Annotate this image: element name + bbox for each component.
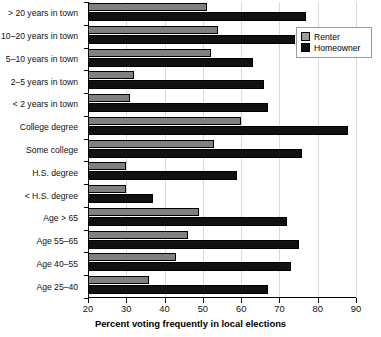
y-axis-category-label: Age > 65 xyxy=(43,213,78,223)
bar-homeowner xyxy=(88,171,237,180)
bar-homeowner xyxy=(88,80,264,89)
x-tick-label: 30 xyxy=(111,303,141,315)
bar-homeowner xyxy=(88,194,153,203)
legend-swatch-renter-icon xyxy=(301,32,310,41)
y-axis-category-label: Some college xyxy=(26,145,78,155)
y-axis-category-label: H.S. degree xyxy=(32,168,78,178)
bar-renter xyxy=(88,49,211,57)
bar-homeowner xyxy=(88,35,295,44)
x-tick-label: 80 xyxy=(303,303,333,315)
legend-swatch-homeowner-icon xyxy=(301,43,310,52)
bar-chart: > 20 years in town10–20 years in town5–1… xyxy=(0,0,381,337)
bar-renter xyxy=(88,71,134,79)
bar-renter xyxy=(88,208,199,216)
bar-homeowner xyxy=(88,285,268,294)
x-tick-label: 60 xyxy=(226,303,256,315)
bar-homeowner xyxy=(88,58,253,67)
bar-group xyxy=(88,116,356,139)
legend-item-homeowner: Homeowner xyxy=(301,42,367,53)
bar-homeowner xyxy=(88,262,291,271)
y-axis-category-label: Age 40–55 xyxy=(36,259,78,269)
y-axis-category-label: College degree xyxy=(20,122,78,132)
y-axis-category-label: 10–20 years in town xyxy=(1,31,78,41)
y-axis-category-label: 5–10 years in town xyxy=(6,54,78,64)
x-tick-label: 70 xyxy=(264,303,294,315)
x-tick-label: 20 xyxy=(73,303,103,315)
x-tick-label: 90 xyxy=(341,303,371,315)
legend-label-renter: Renter xyxy=(314,32,340,42)
bar-group xyxy=(88,139,356,162)
bar-renter xyxy=(88,3,207,11)
bar-group xyxy=(88,184,356,207)
bar-group xyxy=(88,93,356,116)
x-tick-label: 40 xyxy=(150,303,180,315)
legend: Renter Homeowner xyxy=(296,27,372,58)
bar-renter xyxy=(88,253,176,261)
bar-homeowner xyxy=(88,217,287,226)
bar-homeowner xyxy=(88,149,302,158)
y-axis-category-label: Age 55–65 xyxy=(36,236,78,246)
y-axis-category-label: 2–5 years in town xyxy=(11,77,78,87)
bar-group xyxy=(88,275,356,298)
bar-homeowner xyxy=(88,103,268,112)
x-axis-tick-labels: 2030405060708090 xyxy=(0,303,381,317)
bar-group xyxy=(88,2,356,25)
y-axis-line xyxy=(88,2,89,298)
bar-renter xyxy=(88,94,130,102)
bar-renter xyxy=(88,162,126,170)
bar-homeowner xyxy=(88,12,306,21)
legend-item-renter: Renter xyxy=(301,31,367,42)
y-axis-category-label: Age 25–40 xyxy=(36,282,78,292)
bar-renter xyxy=(88,185,126,193)
bar-group xyxy=(88,230,356,253)
y-axis-category-label: > 20 years in town xyxy=(8,8,78,18)
x-tick-label: 50 xyxy=(188,303,218,315)
x-axis-title: Percent voting frequently in local elect… xyxy=(0,318,381,329)
bar-renter xyxy=(88,26,218,34)
bar-renter xyxy=(88,117,241,125)
legend-label-homeowner: Homeowner xyxy=(314,43,360,53)
bar-group xyxy=(88,70,356,93)
y-axis-labels: > 20 years in town10–20 years in town5–1… xyxy=(0,2,84,298)
bar-homeowner xyxy=(88,240,299,249)
bar-renter xyxy=(88,276,149,284)
bar-homeowner xyxy=(88,126,348,135)
bar-group xyxy=(88,252,356,275)
bar-renter xyxy=(88,140,214,148)
bar-group xyxy=(88,161,356,184)
bar-group xyxy=(88,207,356,230)
y-axis-category-label: < 2 years in town xyxy=(13,99,78,109)
bar-renter xyxy=(88,231,188,239)
y-axis-category-label: < H.S. degree xyxy=(25,191,78,201)
